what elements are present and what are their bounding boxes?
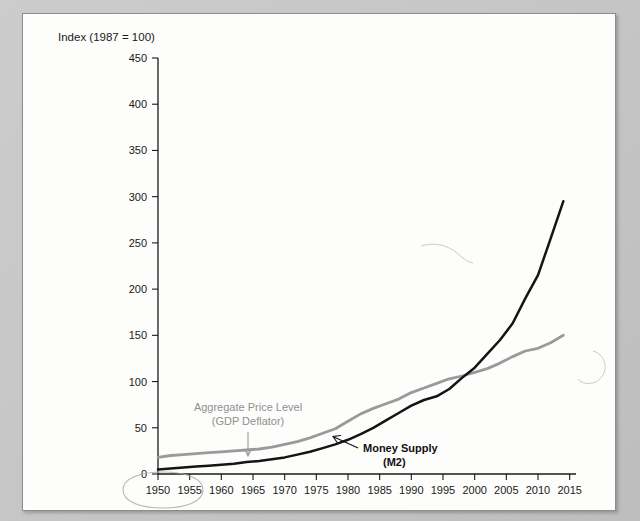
x-tick-label: 1985 <box>367 484 391 496</box>
x-tick-label: 1975 <box>304 484 328 496</box>
x-tick-label: 1980 <box>336 484 360 496</box>
chart-svg: Index (1987 = 100) 050100150200250300350… <box>23 14 615 510</box>
y-tick-label: 400 <box>129 98 147 110</box>
y-tick-label: 200 <box>129 283 147 295</box>
y-axis-title: Index (1987 = 100) <box>58 31 155 43</box>
page-background: Index (1987 = 100) 050100150200250300350… <box>0 0 640 521</box>
series-line-money-supply <box>158 201 563 469</box>
annotation-price-level-line2: (GDP Deflator) <box>212 415 285 427</box>
y-axis-ticks: 050100150200250300350400450 <box>129 52 158 480</box>
y-tick-label: 100 <box>129 376 147 388</box>
series-line-price-level <box>158 335 563 457</box>
x-tick-label: 1950 <box>146 484 170 496</box>
x-tick-label: 2010 <box>526 484 550 496</box>
y-tick-label: 150 <box>129 329 147 341</box>
pencil-hook-right <box>578 351 605 384</box>
annotation-money-supply-line1: Money Supply <box>363 442 438 454</box>
annotation-price-level-line1: Aggregate Price Level <box>194 401 302 413</box>
x-tick-label: 1955 <box>177 484 201 496</box>
y-tick-label: 350 <box>129 144 147 156</box>
x-tick-label: 1990 <box>399 484 423 496</box>
figure-card: Index (1987 = 100) 050100150200250300350… <box>22 13 616 511</box>
x-tick-label: 1995 <box>431 484 455 496</box>
pencil-squiggle-mid <box>421 244 473 263</box>
y-tick-label: 300 <box>129 191 147 203</box>
x-tick-label: 2015 <box>557 484 581 496</box>
annotation-money-supply-line2: (M2) <box>383 456 406 468</box>
x-axis-ticks: 1950195519601965197019751980198519901995… <box>146 474 582 496</box>
y-tick-label: 250 <box>129 237 147 249</box>
y-tick-label: 50 <box>135 422 147 434</box>
x-tick-label: 1965 <box>241 484 265 496</box>
chart-plot-area: Index (1987 = 100) 050100150200250300350… <box>23 14 615 510</box>
y-tick-label: 450 <box>129 52 147 64</box>
x-tick-label: 2005 <box>494 484 518 496</box>
x-tick-label: 2000 <box>462 484 486 496</box>
annotation-price-level-arrow <box>245 432 252 456</box>
x-tick-label: 1970 <box>272 484 296 496</box>
x-tick-label: 1960 <box>209 484 233 496</box>
